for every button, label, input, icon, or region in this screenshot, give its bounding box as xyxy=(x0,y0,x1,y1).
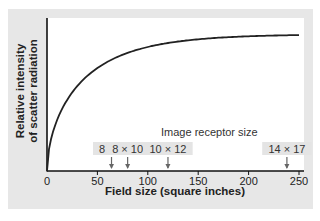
receptor-size-label: 14 × 17 xyxy=(268,143,305,155)
receptor-size-title: Image receptor size xyxy=(161,126,258,138)
y-axis-label: Relative intensity of scatter radiation xyxy=(14,39,39,143)
x-tick-label: 250 xyxy=(290,175,308,187)
receptor-size-label: 8 × 10 xyxy=(112,143,143,155)
chart-svg: 050100150200250 Image receptor size 8 × … xyxy=(0,0,320,221)
receptor-size-label: 10 × 12 xyxy=(149,143,186,155)
x-tick-label: 50 xyxy=(91,175,103,187)
y-axis-label-line-2: of scatter radiation xyxy=(27,39,39,143)
y-axis-label-line-1: Relative intensity xyxy=(14,43,26,138)
x-axis-label: Field size (square inches) xyxy=(105,185,245,197)
x-tick-label: 0 xyxy=(44,175,50,187)
